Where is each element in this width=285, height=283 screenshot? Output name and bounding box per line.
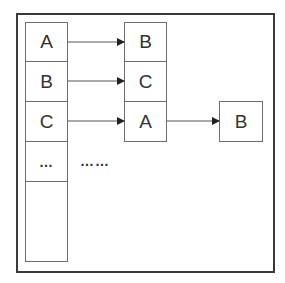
arrows-layer xyxy=(0,0,285,283)
